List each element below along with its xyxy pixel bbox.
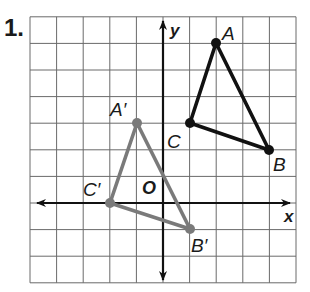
point-a-prime bbox=[132, 118, 142, 128]
point-c bbox=[185, 118, 195, 128]
label-c: C bbox=[167, 131, 181, 152]
y-axis-label: y bbox=[169, 21, 181, 40]
label-c-prime: C′ bbox=[83, 179, 102, 200]
point-a bbox=[211, 38, 221, 48]
triangle-abc: A B C bbox=[167, 23, 286, 175]
coordinate-plane: x y O A B C A′ B′ C′ bbox=[0, 0, 310, 292]
label-b: B bbox=[273, 154, 286, 175]
point-c-prime bbox=[105, 198, 115, 208]
label-b-prime: B′ bbox=[191, 235, 209, 256]
axes: x y O bbox=[37, 21, 295, 280]
point-b-prime bbox=[185, 224, 195, 234]
label-a: A bbox=[221, 23, 235, 44]
x-axis-label: x bbox=[283, 207, 295, 226]
label-a-prime: A′ bbox=[109, 99, 128, 120]
origin-label: O bbox=[142, 178, 156, 198]
